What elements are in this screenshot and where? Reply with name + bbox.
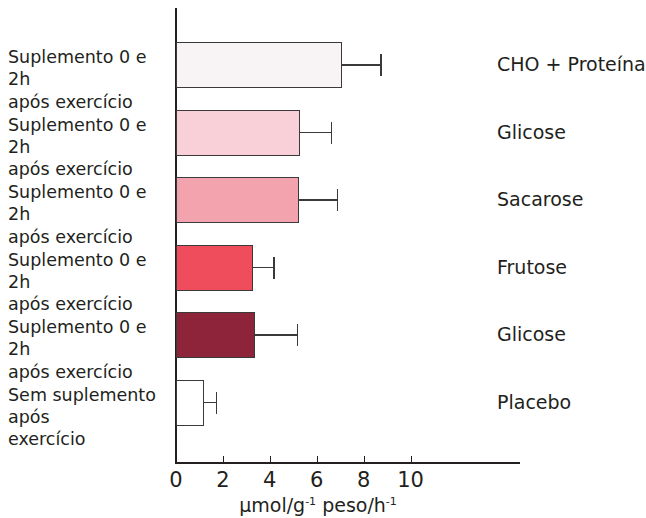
error-bar-line [255,334,297,336]
condition-label: Suplemento 0 e 2h após exercício [8,249,170,316]
condition-label: Suplemento 0 e 2h após exercício [8,114,170,181]
bar[interactable] [176,380,204,426]
x-axis-title: μmol/g-1 peso/h-1 [239,494,397,516]
x-axis-tick [317,456,318,463]
series-label: CHO + Proteína [497,53,646,75]
x-axis-title-sup1: -1 [305,495,316,508]
error-bar-cap [297,324,299,346]
x-axis-title-middle: peso/h [316,494,386,516]
x-axis-tick [223,456,224,463]
bar[interactable] [176,312,255,358]
x-axis-tick [364,456,365,463]
x-axis-tick [270,456,271,463]
series-label: Placebo [497,391,571,413]
x-axis-tick-label: 0 [169,468,182,492]
error-bar-line [300,132,330,134]
condition-label: Suplemento 0 e 2h após exercício [8,316,170,383]
series-label: Glicose [497,323,566,345]
x-axis-line [175,462,520,464]
x-axis-tick-label: 8 [357,468,370,492]
x-axis-tick-label: 10 [397,468,424,492]
series-label: Frutose [497,256,567,278]
error-bar-cap [380,54,382,76]
bar[interactable] [176,245,253,291]
x-axis-tick-label: 2 [216,468,229,492]
error-bar-cap [331,122,333,144]
x-axis-tick-label: 4 [263,468,276,492]
series-label: Sacarose [497,188,583,210]
error-bar-line [299,199,337,201]
x-axis-tick [411,456,412,463]
condition-label: Sem suplemento após exercício [8,384,170,451]
x-axis-title-sup2: -1 [386,495,397,508]
bar[interactable] [176,177,299,223]
bar[interactable] [176,42,342,88]
error-bar-cap [273,257,275,279]
series-label: Glicose [497,121,566,143]
error-bar-line [253,267,273,269]
error-bar-cap [216,392,218,414]
condition-label: Suplemento 0 e 2h após exercício [8,46,170,113]
error-bar-line [342,64,380,66]
error-bar-line [204,402,216,404]
x-axis-tick-label: 6 [310,468,323,492]
x-axis-tick [176,456,177,463]
x-axis-title-prefix: μmol/g [239,494,305,516]
condition-label: Suplemento 0 e 2h após exercício [8,181,170,248]
bar[interactable] [176,110,300,156]
error-bar-cap [337,189,339,211]
